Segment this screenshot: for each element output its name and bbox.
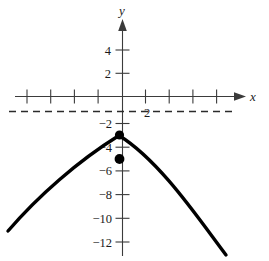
y-tick-label--12: −12	[92, 236, 112, 250]
coordinate-plane-plot: x 2 y 4 2 −2 −4 −6 −8	[0, 0, 269, 261]
y-axis-group: y 4 2 −2 −4 −6 −8 −10 −12	[92, 3, 129, 256]
y-tick-label--2: −2	[99, 117, 112, 131]
y-tick-label-4: 4	[105, 44, 112, 58]
y-tick-label--10: −10	[92, 212, 112, 226]
vertex-point-dot	[115, 130, 124, 139]
lower-point-dot	[115, 154, 125, 164]
y-axis-arrow-icon	[118, 19, 127, 31]
x-tick-label-2: 2	[144, 106, 150, 120]
y-tick-label--8: −8	[99, 188, 112, 202]
graph-figure: x 2 y 4 2 −2 −4 −6 −8	[0, 0, 269, 261]
x-axis-arrow-icon	[234, 92, 246, 101]
y-tick-label-2: 2	[105, 67, 111, 81]
x-axis-group: x 2	[15, 89, 256, 120]
x-axis-label: x	[249, 89, 256, 104]
parabola-curve	[8, 136, 226, 256]
y-tick-label--6: −6	[99, 164, 112, 178]
y-axis-label: y	[117, 3, 125, 18]
